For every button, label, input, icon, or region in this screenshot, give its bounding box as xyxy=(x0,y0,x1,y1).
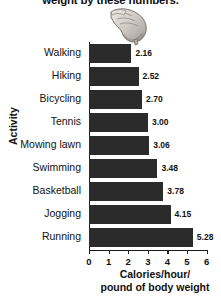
bar-basketball xyxy=(89,182,163,201)
bar-value-jogging: 4.15 xyxy=(175,209,192,219)
category-label-hiking: Hiking xyxy=(0,69,85,81)
category-label-running: Running xyxy=(0,230,85,242)
x-tick-6 xyxy=(207,250,208,254)
x-tick-5 xyxy=(187,250,188,254)
category-label-jogging: Jogging xyxy=(0,207,85,219)
pointing-hand-icon xyxy=(108,6,154,46)
category-label-walking: Walking xyxy=(0,46,85,58)
bar-value-bicycling: 2.70 xyxy=(146,94,163,104)
x-axis-label-line1: Calories/hour/ xyxy=(89,268,221,281)
x-tick-label-3: 3 xyxy=(145,256,150,267)
x-tick-label-6: 6 xyxy=(204,256,209,267)
category-label-mowing-lawn: Mowing lawn xyxy=(0,138,85,150)
x-tick-3 xyxy=(148,250,149,254)
bar-value-walking: 2.16 xyxy=(135,48,152,58)
x-tick-1 xyxy=(109,250,110,254)
bar-running xyxy=(89,228,193,247)
x-tick-0 xyxy=(89,250,90,254)
x-tick-label-4: 4 xyxy=(165,256,170,267)
chart-figure: weight by these numbers. Activity Walkin… xyxy=(0,0,221,301)
bar-value-swimming: 3.48 xyxy=(161,163,178,173)
plot-area: 0 1 2 3 4 5 6 2.16 2.52 2.70 3.00 3.06 3… xyxy=(89,42,207,250)
x-tick-label-2: 2 xyxy=(126,256,131,267)
category-labels: Walking Hiking Bicycling Tennis Mowing l… xyxy=(0,42,85,250)
bar-value-running: 5.28 xyxy=(197,232,214,242)
bar-mowing-lawn xyxy=(89,136,149,155)
x-axis-label-line2: pound of body weight xyxy=(89,281,221,294)
bar-hiking xyxy=(89,67,139,86)
bar-walking xyxy=(89,44,131,63)
x-tick-2 xyxy=(128,250,129,254)
bar-value-mowing-lawn: 3.06 xyxy=(153,140,170,150)
category-label-bicycling: Bicycling xyxy=(0,92,85,104)
bar-value-hiking: 2.52 xyxy=(143,71,160,81)
category-label-swimming: Swimming xyxy=(0,161,85,173)
x-tick-4 xyxy=(167,250,168,254)
x-tick-label-1: 1 xyxy=(106,256,111,267)
category-label-tennis: Tennis xyxy=(0,115,85,127)
bar-bicycling xyxy=(89,90,142,109)
bar-tennis xyxy=(89,113,148,132)
bar-value-basketball: 3.78 xyxy=(167,186,184,196)
bar-jogging xyxy=(89,205,171,224)
x-tick-label-5: 5 xyxy=(184,256,189,267)
x-axis-label: Calories/hour/ pound of body weight xyxy=(89,268,221,294)
category-label-basketball: Basketball xyxy=(0,184,85,196)
x-tick-label-0: 0 xyxy=(86,256,91,267)
bar-value-tennis: 3.00 xyxy=(152,117,169,127)
bar-swimming xyxy=(89,159,157,178)
